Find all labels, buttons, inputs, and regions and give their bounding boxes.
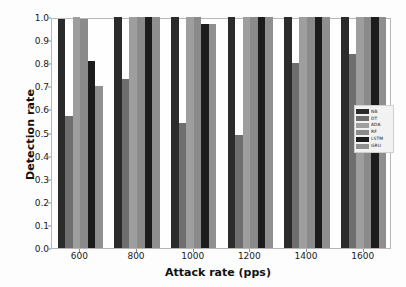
legend: NBDTADARFLSTMGRU: [354, 105, 394, 153]
bars-layer: [52, 19, 390, 248]
legend-item: ADA: [356, 122, 392, 128]
x-tick-label: 1600: [333, 251, 393, 261]
bar: [209, 24, 217, 248]
bar: [292, 63, 300, 248]
legend-item: DT: [356, 115, 392, 121]
bar: [137, 17, 145, 248]
bar: [95, 86, 103, 248]
legend-label: ADA: [371, 122, 381, 128]
legend-swatch-icon: [356, 144, 369, 149]
bar: [152, 17, 160, 248]
legend-label: RF: [371, 129, 377, 135]
x-tick-mark: [193, 249, 194, 252]
legend-label: LSTM: [371, 136, 383, 142]
bar: [179, 123, 187, 248]
x-tick-label: 1000: [163, 251, 223, 261]
y-tick-label: 0.6: [15, 105, 49, 115]
bar: [284, 17, 292, 248]
legend-item: GRU: [356, 143, 392, 149]
x-tick-mark: [363, 249, 364, 252]
legend-label: NB: [371, 109, 378, 115]
legend-swatch-icon: [356, 109, 369, 114]
x-tick-mark: [136, 249, 137, 252]
bar: [322, 17, 330, 248]
y-tick-label: 0.0: [15, 244, 49, 254]
bar: [73, 17, 81, 248]
bar: [171, 17, 179, 248]
plot-area: [51, 18, 391, 249]
legend-swatch-icon: [356, 130, 369, 135]
bar: [201, 24, 209, 248]
legend-item: LSTM: [356, 136, 392, 142]
bar: [235, 135, 243, 248]
bar: [58, 19, 66, 248]
bar: [194, 17, 202, 248]
bar: [88, 61, 96, 248]
legend-swatch-icon: [356, 123, 369, 128]
bar: [265, 17, 273, 248]
bar: [307, 17, 315, 248]
y-tick-label: 0.5: [15, 129, 49, 139]
y-tick-label: 0.8: [15, 59, 49, 69]
legend-label: DT: [371, 116, 377, 122]
bar: [315, 17, 323, 248]
x-tick-label: 800: [106, 251, 166, 261]
legend-label: GRU: [371, 143, 381, 149]
legend-item: RF: [356, 129, 392, 135]
y-tick-label: 0.7: [15, 82, 49, 92]
bar: [341, 17, 349, 248]
legend-swatch-icon: [356, 137, 369, 142]
chart-figure: Detection rate 0.00.10.20.30.40.50.60.70…: [0, 0, 406, 287]
x-tick-mark: [249, 249, 250, 252]
y-tick-label: 0.9: [15, 36, 49, 46]
y-tick-label: 0.4: [15, 152, 49, 162]
y-tick-label: 0.3: [15, 175, 49, 185]
bar: [114, 17, 122, 248]
legend-swatch-icon: [356, 116, 369, 121]
bar: [65, 116, 73, 248]
bar: [243, 17, 251, 248]
bar: [122, 79, 130, 248]
x-tick-label: 600: [49, 251, 109, 261]
y-tick-label: 1.0: [15, 13, 49, 23]
x-axis-title: Attack rate (pps): [50, 266, 386, 279]
x-tick-label: 1400: [276, 251, 336, 261]
x-tick-label: 1200: [219, 251, 279, 261]
y-tick-label: 0.1: [15, 221, 49, 231]
bar: [186, 17, 194, 248]
x-tick-mark: [306, 249, 307, 252]
y-tick-label: 0.2: [15, 198, 49, 208]
bar: [258, 17, 266, 248]
bar: [228, 17, 236, 248]
legend-item: NB: [356, 109, 392, 115]
bar: [250, 17, 258, 248]
x-tick-mark: [79, 249, 80, 252]
bar: [299, 17, 307, 248]
bar: [145, 17, 153, 248]
bar: [80, 19, 88, 248]
bar: [129, 17, 137, 248]
